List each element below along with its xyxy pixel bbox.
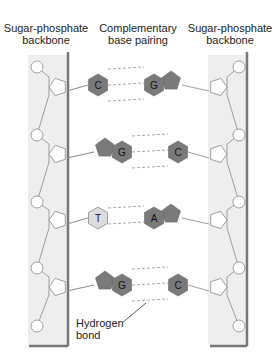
purine-ring-icon xyxy=(162,71,181,89)
base-letter: G xyxy=(150,80,158,91)
purine-ring-icon xyxy=(96,138,115,156)
phosphate-icon xyxy=(233,129,245,141)
base-letter: C xyxy=(174,147,181,158)
hydrogen-bond xyxy=(132,150,168,152)
hydrogen-bond xyxy=(132,267,168,269)
phosphate-icon xyxy=(31,320,43,332)
purine-ring-icon xyxy=(162,204,181,222)
purine-ring-icon xyxy=(96,271,115,289)
glycosidic-bond xyxy=(188,152,209,158)
phosphate-icon xyxy=(31,196,43,208)
hydrogen-bond xyxy=(108,222,144,224)
phosphate-icon xyxy=(233,262,245,274)
glycosidic-bond xyxy=(188,285,209,291)
hydrogen-bond xyxy=(108,99,144,101)
phosphate-icon xyxy=(31,61,43,73)
hydrogen-bond xyxy=(132,299,168,301)
base-letter: T xyxy=(95,213,101,224)
hydrogen-bond xyxy=(132,283,168,285)
phosphate-icon xyxy=(31,262,43,274)
glycosidic-bond xyxy=(67,85,88,91)
phosphate-icon xyxy=(233,61,245,73)
hydrogen-bond xyxy=(132,166,168,168)
base-letter: G xyxy=(118,147,126,158)
phosphate-icon xyxy=(233,196,245,208)
hydrogen-bond xyxy=(132,134,168,136)
glycosidic-bond xyxy=(182,85,209,91)
phosphate-icon xyxy=(233,320,245,332)
base-letter: C xyxy=(174,280,181,291)
dna-diagram: CGGCTAGC xyxy=(0,0,276,359)
glycosidic-bond xyxy=(67,152,94,158)
hydrogen-bond xyxy=(108,206,144,208)
hydrogen-bond-pointer xyxy=(122,303,146,323)
glycosidic-bond xyxy=(67,285,94,291)
hydrogen-bond xyxy=(108,67,144,69)
glycosidic-bond xyxy=(67,218,88,224)
hydrogen-bond xyxy=(108,83,144,85)
phosphate-icon xyxy=(31,129,43,141)
glycosidic-bond xyxy=(182,218,209,224)
base-letter: G xyxy=(118,280,126,291)
base-letter: A xyxy=(151,213,158,224)
base-letter: C xyxy=(94,80,101,91)
